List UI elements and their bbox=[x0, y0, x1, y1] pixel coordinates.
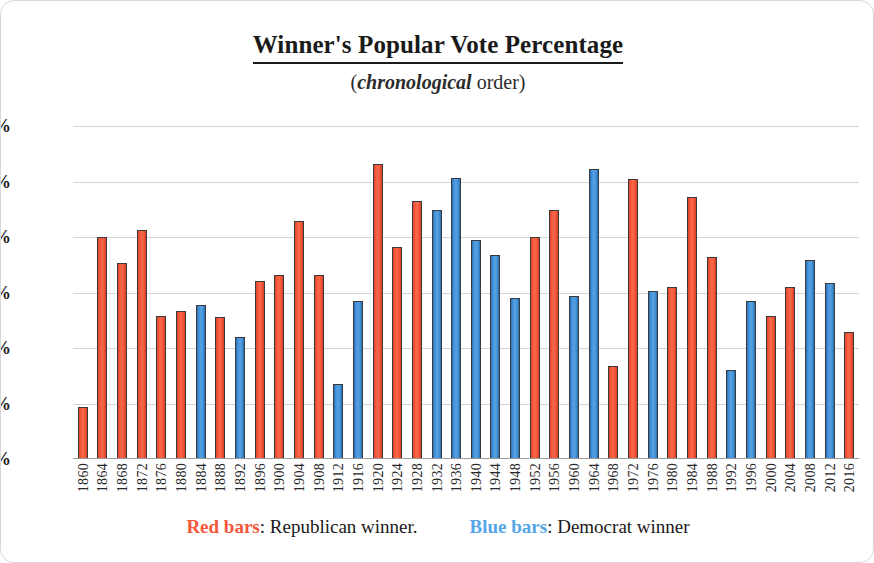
page-title: Winner's Popular Vote Percentage bbox=[253, 31, 624, 64]
x-axis-tick-label: 1980 bbox=[665, 463, 679, 492]
x-axis-tick-label: 1956 bbox=[547, 463, 561, 492]
x-axis-tick-label: 1928 bbox=[410, 463, 424, 492]
bar-2008[interactable] bbox=[805, 260, 815, 459]
bar-1948[interactable] bbox=[510, 298, 520, 459]
bar-1880[interactable] bbox=[176, 311, 186, 459]
bar-1932[interactable] bbox=[432, 210, 442, 459]
y-axis-tick-label: 45% bbox=[0, 338, 11, 359]
x-axis-tick-label: 1964 bbox=[587, 463, 601, 492]
bar-1960[interactable] bbox=[569, 296, 579, 459]
x-axis-tick-label: 1976 bbox=[646, 463, 660, 492]
x-axis-tick-label: 1912 bbox=[331, 463, 345, 492]
bar-1928[interactable] bbox=[412, 201, 422, 459]
gridline bbox=[73, 237, 859, 238]
x-axis-tick-label: 1888 bbox=[213, 463, 227, 492]
bar-1908[interactable] bbox=[314, 275, 324, 459]
x-axis-tick-label: 1904 bbox=[292, 463, 306, 492]
x-axis-tick-label: 1896 bbox=[253, 463, 267, 492]
x-axis-tick-label: 1920 bbox=[371, 463, 385, 492]
x-axis-tick-label: 1908 bbox=[312, 463, 326, 492]
bar-1876[interactable] bbox=[156, 316, 166, 459]
bar-1896[interactable] bbox=[255, 281, 265, 459]
bar-1940[interactable] bbox=[471, 240, 481, 459]
bar-1904[interactable] bbox=[294, 221, 304, 459]
bar-1980[interactable] bbox=[667, 287, 677, 459]
bar-1884[interactable] bbox=[196, 305, 206, 459]
bar-1956[interactable] bbox=[549, 210, 559, 459]
bar-1936[interactable] bbox=[451, 178, 461, 459]
gridline bbox=[73, 348, 859, 349]
legend-swatch-democrat: Blue bars bbox=[470, 516, 548, 537]
y-axis-tick-label: 35% bbox=[0, 449, 11, 470]
bar-1892[interactable] bbox=[235, 337, 245, 459]
y-axis-tick-label: 65% bbox=[0, 116, 11, 137]
x-axis-tick-label: 1924 bbox=[390, 463, 404, 492]
bar-1984[interactable] bbox=[687, 197, 697, 459]
x-axis-tick-label: 1864 bbox=[95, 463, 109, 492]
subtitle-remainder: order) bbox=[472, 71, 526, 93]
legend-entry-democrat: Blue bars: Democrat winner bbox=[470, 516, 690, 538]
legend-label-democrat: Democrat winner bbox=[552, 516, 689, 537]
bar-1868[interactable] bbox=[117, 263, 127, 459]
x-axis-tick-label: 1892 bbox=[233, 463, 247, 492]
y-axis-tick-label: 50% bbox=[0, 282, 11, 303]
bar-1864[interactable] bbox=[97, 237, 107, 459]
bar-1860[interactable] bbox=[78, 407, 88, 459]
title-block: Winner's Popular Vote Percentage (chrono… bbox=[1, 31, 874, 94]
x-axis-tick-label: 1880 bbox=[174, 463, 188, 492]
bar-1988[interactable] bbox=[707, 257, 717, 459]
bar-1992[interactable] bbox=[726, 370, 736, 459]
plot-area bbox=[73, 126, 859, 459]
x-axis-tick-label: 1992 bbox=[724, 463, 738, 492]
x-axis-tick-label: 1952 bbox=[528, 463, 542, 492]
x-axis-baseline bbox=[73, 458, 859, 460]
bar-1952[interactable] bbox=[530, 237, 540, 459]
chart-container: Winner's Popular Vote Percentage (chrono… bbox=[0, 0, 874, 563]
bar-2012[interactable] bbox=[825, 283, 835, 459]
y-axis-tick-label: 60% bbox=[0, 171, 11, 192]
x-axis-tick-label: 2000 bbox=[764, 463, 778, 492]
legend-swatch-republican: Red bars bbox=[186, 516, 259, 537]
y-axis-tick-label: 55% bbox=[0, 227, 11, 248]
gridline bbox=[73, 404, 859, 405]
x-axis-tick-label: 2012 bbox=[823, 463, 837, 492]
bar-1964[interactable] bbox=[589, 169, 599, 459]
bar-1916[interactable] bbox=[353, 301, 363, 459]
bar-1920[interactable] bbox=[373, 164, 383, 459]
gridline bbox=[73, 126, 859, 127]
x-axis-tick-label: 1960 bbox=[567, 463, 581, 492]
x-axis-tick-label: 1876 bbox=[154, 463, 168, 492]
x-axis-tick-label: 1948 bbox=[508, 463, 522, 492]
x-axis-tick-label: 1900 bbox=[272, 463, 286, 492]
x-axis-tick-label: 2004 bbox=[783, 463, 797, 492]
bar-1872[interactable] bbox=[137, 230, 147, 459]
bar-2016[interactable] bbox=[844, 332, 854, 459]
chart-legend: Red bars: Republican winner.Blue bars: D… bbox=[1, 516, 874, 538]
x-axis-tick-label: 1884 bbox=[194, 463, 208, 492]
bar-1924[interactable] bbox=[392, 247, 402, 459]
x-axis-tick-label: 1944 bbox=[488, 463, 502, 492]
bar-1912[interactable] bbox=[333, 384, 343, 459]
x-axis-tick-label: 1872 bbox=[135, 463, 149, 492]
x-axis-tick-label: 1988 bbox=[705, 463, 719, 492]
bar-1996[interactable] bbox=[746, 301, 756, 459]
x-axis-tick-label: 1940 bbox=[469, 463, 483, 492]
x-axis-tick-label: 1996 bbox=[744, 463, 758, 492]
bar-2000[interactable] bbox=[766, 316, 776, 459]
x-axis-tick-label: 1860 bbox=[76, 463, 90, 492]
x-axis-tick-label: 2016 bbox=[842, 463, 856, 492]
x-axis-tick-label: 1968 bbox=[606, 463, 620, 492]
gridline bbox=[73, 293, 859, 294]
legend-label-republican: Republican winner. bbox=[265, 516, 418, 537]
bar-1900[interactable] bbox=[274, 275, 284, 459]
bar-1888[interactable] bbox=[215, 317, 225, 459]
gridline bbox=[73, 182, 859, 183]
bar-1976[interactable] bbox=[648, 291, 658, 459]
bar-1972[interactable] bbox=[628, 179, 638, 459]
x-axis-tick-label: 1984 bbox=[685, 463, 699, 492]
bar-1968[interactable] bbox=[608, 366, 618, 459]
y-axis-tick-label: 40% bbox=[0, 393, 11, 414]
bar-1944[interactable] bbox=[490, 255, 500, 459]
chart-subtitle: (chronological order) bbox=[1, 71, 874, 94]
bar-2004[interactable] bbox=[785, 287, 795, 459]
